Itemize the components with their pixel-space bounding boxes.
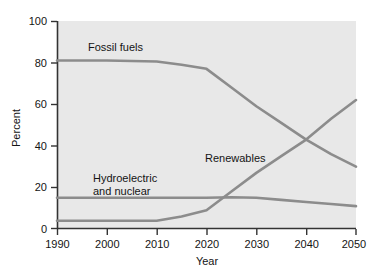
- y-axis-title: Percent: [10, 109, 22, 147]
- x-tick-marks: [58, 229, 357, 235]
- annotation-fossil-fuels: Fossil fuels: [88, 41, 144, 53]
- x-tick-label-2050: 2050: [342, 238, 366, 250]
- y-tick-label-20: 20: [35, 181, 47, 193]
- annotation-hydro-line2: and nuclear: [93, 185, 151, 197]
- y-tick-label-80: 80: [35, 57, 47, 69]
- annotation-hydro-line1: Hydroelectric: [93, 172, 158, 184]
- x-axis-title: Year: [196, 255, 219, 267]
- chart-figure: 100 80 60 40 20 0 1990 2000 2010 2020 20…: [0, 0, 382, 272]
- x-tick-label-2020: 2020: [195, 238, 219, 250]
- annotation-renewables: Renewables: [205, 152, 266, 164]
- x-tick-label-2010: 2010: [145, 238, 169, 250]
- energy-mix-line-chart: 100 80 60 40 20 0 1990 2000 2010 2020 20…: [0, 0, 382, 272]
- y-tick-label-40: 40: [35, 140, 47, 152]
- x-tick-label-2040: 2040: [294, 238, 318, 250]
- y-tick-label-100: 100: [29, 15, 47, 27]
- y-tick-label-0: 0: [41, 223, 47, 235]
- y-tick-label-60: 60: [35, 98, 47, 110]
- x-tick-label-2030: 2030: [245, 238, 269, 250]
- x-tick-label-2000: 2000: [95, 238, 119, 250]
- x-tick-label-1990: 1990: [45, 238, 69, 250]
